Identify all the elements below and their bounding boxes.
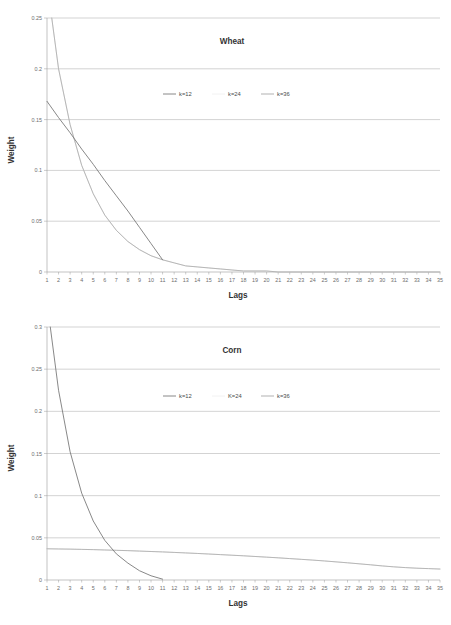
x-tick-label-7: 8 <box>126 277 129 283</box>
legend-label-2: k=36 <box>277 91 290 97</box>
x-tick-label-26: 27 <box>345 585 351 591</box>
x-axis-title: Lags <box>228 291 248 300</box>
series-line-k24 <box>52 18 440 272</box>
x-tick-label-15: 16 <box>217 277 223 283</box>
x-tick-label-27: 28 <box>356 277 362 283</box>
x-tick-label-25: 26 <box>333 277 339 283</box>
x-tick-label-8: 9 <box>138 585 141 591</box>
x-tick-label-22: 23 <box>298 585 304 591</box>
x-tick-label-24: 25 <box>321 585 327 591</box>
x-tick-label-13: 14 <box>194 585 200 591</box>
x-tick-label-18: 19 <box>252 277 258 283</box>
x-tick-label-17: 18 <box>241 585 247 591</box>
x-tick-label-33: 34 <box>425 277 431 283</box>
y-tick-label-0: 0 <box>39 269 42 275</box>
x-tick-label-17: 18 <box>241 277 247 283</box>
y-tick-label-4: 0.2 <box>35 408 43 414</box>
y-tick-label-3: 0.15 <box>32 451 43 457</box>
chart-title: Wheat <box>220 37 245 46</box>
x-tick-label-16: 17 <box>229 585 235 591</box>
x-tick-label-10: 11 <box>160 585 166 591</box>
x-tick-label-19: 20 <box>264 277 270 283</box>
x-tick-label-23: 24 <box>310 585 316 591</box>
y-tick-label-5: 0.25 <box>32 366 43 372</box>
x-tick-label-5: 6 <box>103 277 106 283</box>
x-tick-label-12: 13 <box>183 277 189 283</box>
x-tick-label-22: 23 <box>298 277 304 283</box>
legend-label-0: k=12 <box>179 91 192 97</box>
x-tick-label-1: 2 <box>57 585 60 591</box>
x-tick-label-10: 11 <box>160 277 166 283</box>
x-tick-label-5: 6 <box>103 585 106 591</box>
legend-label-0: k=12 <box>179 393 192 399</box>
x-tick-label-25: 26 <box>333 585 339 591</box>
x-tick-label-19: 20 <box>264 585 270 591</box>
x-tick-label-12: 13 <box>183 585 189 591</box>
x-tick-label-21: 22 <box>287 585 293 591</box>
x-tick-label-15: 16 <box>217 585 223 591</box>
x-tick-label-16: 17 <box>229 277 235 283</box>
y-tick-label-2: 0.1 <box>35 167 43 173</box>
x-tick-label-28: 29 <box>368 277 374 283</box>
x-tick-label-29: 30 <box>379 277 385 283</box>
x-tick-label-31: 32 <box>402 585 408 591</box>
y-axis-title: Weight <box>7 444 16 471</box>
x-tick-label-6: 7 <box>115 277 118 283</box>
x-tick-label-27: 28 <box>356 585 362 591</box>
series-line-k12 <box>50 327 162 579</box>
x-tick-label-20: 21 <box>275 585 281 591</box>
x-tick-label-26: 27 <box>345 277 351 283</box>
x-tick-label-29: 30 <box>379 585 385 591</box>
x-axis-title: Lags <box>228 599 248 608</box>
y-tick-label-6: 0.3 <box>35 324 43 330</box>
x-tick-label-7: 8 <box>126 585 129 591</box>
x-tick-label-34: 35 <box>437 585 443 591</box>
x-tick-label-31: 32 <box>402 277 408 283</box>
y-tick-label-5: 0.25 <box>32 15 43 21</box>
x-tick-label-0: 1 <box>46 585 49 591</box>
y-tick-label-4: 0.2 <box>35 66 43 72</box>
x-tick-label-9: 10 <box>148 585 154 591</box>
x-tick-label-9: 10 <box>148 277 154 283</box>
x-tick-label-1: 2 <box>57 277 60 283</box>
chart-wheat: 00.050.10.150.20.25123456789101112131415… <box>0 0 451 310</box>
legend-label-1: K=24 <box>228 393 242 399</box>
x-tick-label-23: 24 <box>310 277 316 283</box>
x-tick-label-14: 15 <box>206 277 212 283</box>
y-axis-title: Weight <box>7 136 16 163</box>
chart-corn: 00.050.10.150.20.250.3123456789101112131… <box>0 310 451 625</box>
x-tick-label-32: 33 <box>414 585 420 591</box>
chart-title: Corn <box>222 346 241 355</box>
x-tick-label-14: 15 <box>206 585 212 591</box>
series-line-k36 <box>52 18 440 272</box>
x-tick-label-3: 4 <box>80 585 83 591</box>
corn-plot-svg: 00.050.10.150.20.250.3123456789101112131… <box>0 310 451 625</box>
wheat-plot-svg: 00.050.10.150.20.25123456789101112131415… <box>0 0 451 310</box>
series-line-k36 <box>47 549 440 569</box>
x-tick-label-34: 35 <box>437 277 443 283</box>
x-tick-label-2: 3 <box>69 585 72 591</box>
x-tick-label-30: 31 <box>391 585 397 591</box>
y-tick-label-2: 0.1 <box>35 493 43 499</box>
x-tick-label-8: 9 <box>138 277 141 283</box>
x-tick-label-24: 25 <box>321 277 327 283</box>
y-tick-label-0: 0 <box>39 577 42 583</box>
x-tick-label-4: 5 <box>92 277 95 283</box>
x-tick-label-32: 33 <box>414 277 420 283</box>
x-tick-label-33: 34 <box>425 585 431 591</box>
legend-label-1: k=24 <box>228 91 242 97</box>
x-tick-label-11: 12 <box>171 277 177 283</box>
x-tick-label-6: 7 <box>115 585 118 591</box>
x-tick-label-4: 5 <box>92 585 95 591</box>
x-tick-label-21: 22 <box>287 277 293 283</box>
x-tick-label-0: 1 <box>46 277 49 283</box>
legend-label-2: k=36 <box>277 393 290 399</box>
y-tick-label-1: 0.05 <box>32 218 43 224</box>
x-tick-label-11: 12 <box>171 585 177 591</box>
x-tick-label-3: 4 <box>80 277 83 283</box>
figure-page: 00.050.10.150.20.25123456789101112131415… <box>0 0 451 625</box>
x-tick-label-28: 29 <box>368 585 374 591</box>
x-tick-label-2: 3 <box>69 277 72 283</box>
x-tick-label-30: 31 <box>391 277 397 283</box>
x-tick-label-13: 14 <box>194 277 200 283</box>
